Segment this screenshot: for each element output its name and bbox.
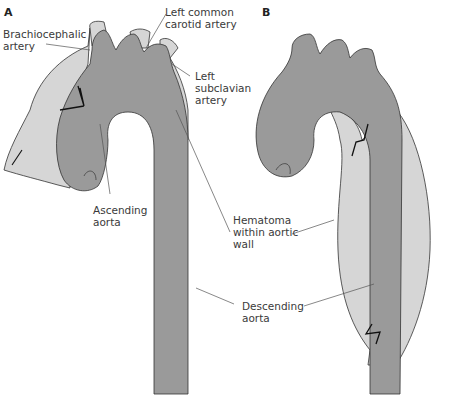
- panel-label-a: A: [4, 6, 13, 19]
- panel-label-b: B: [262, 6, 270, 19]
- label-left-subclavian-artery: Left subclavian artery: [195, 70, 251, 106]
- label-descending-aorta: Descending aorta: [242, 300, 304, 324]
- label-brachiocephalic-artery: Brachiocephalic artery: [3, 28, 86, 52]
- aortic-dissection-diagram: [0, 0, 456, 406]
- label-hematoma-within-aortic-wall: Hematoma within aortic wall: [233, 214, 298, 250]
- label-left-common-carotid-artery: Left common carotid artery: [165, 6, 237, 30]
- label-ascending-aorta: Ascending aorta: [93, 204, 147, 228]
